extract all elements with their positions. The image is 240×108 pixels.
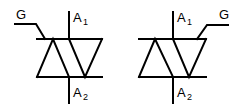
gate-terminal bbox=[15, 24, 45, 39]
triac-symbol-gate-right: G A 1 A 2 bbox=[139, 7, 229, 103]
forward-diode-triangle bbox=[37, 39, 69, 77]
reverse-diode-triangle bbox=[69, 39, 102, 77]
anode1-label: A bbox=[177, 10, 186, 25]
triac-diagram: G A 1 A 2 G A 1 A 2 bbox=[0, 0, 240, 108]
triac-symbol-gate-left: G A 1 A 2 bbox=[15, 7, 102, 103]
anode2-subscript: 2 bbox=[83, 92, 88, 102]
gate-terminal bbox=[197, 25, 228, 39]
anode1-subscript: 1 bbox=[187, 17, 192, 27]
anode1-label: A bbox=[73, 10, 82, 25]
gate-label: G bbox=[219, 7, 229, 22]
anode2-label: A bbox=[73, 85, 82, 100]
forward-diode-triangle bbox=[139, 39, 173, 77]
anode1-subscript: 1 bbox=[83, 17, 88, 27]
reverse-diode-triangle bbox=[173, 39, 206, 77]
anode2-subscript: 2 bbox=[187, 92, 192, 102]
anode2-label: A bbox=[177, 85, 186, 100]
gate-label: G bbox=[16, 7, 26, 22]
